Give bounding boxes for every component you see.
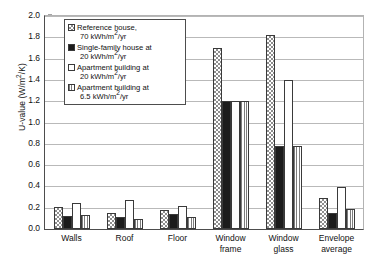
bar	[266, 35, 275, 229]
y-axis-tick-label: 0.0	[8, 224, 40, 233]
bar	[107, 213, 116, 229]
bar	[169, 214, 178, 229]
legend-label-line2: 6.5 kWh/m2/yr	[77, 92, 149, 101]
bar	[116, 217, 125, 229]
legend-item: Apartment building at20 kWh/m2/yr	[68, 63, 182, 81]
bar	[213, 48, 222, 229]
bar-group	[310, 16, 363, 229]
legend-label-line2: 20 kWh/m2/yr	[77, 52, 152, 61]
legend-label: Apartment building at6.5 kWh/m2/yr	[77, 83, 149, 101]
bar	[63, 216, 72, 229]
bar	[319, 198, 328, 229]
bar	[160, 210, 169, 229]
x-axis-tick-label: Window frame	[204, 233, 257, 254]
legend-label-line1: Apartment building at	[77, 63, 149, 72]
bar	[337, 187, 346, 229]
bar	[222, 101, 231, 229]
bar	[81, 215, 90, 229]
legend-swatch-icon	[68, 64, 75, 71]
x-axis-tick-label: Window glass	[257, 233, 310, 254]
bar	[125, 200, 134, 229]
legend-label: Single-family house at20 kWh/m2/yr	[77, 43, 152, 61]
x-axis-tick-label: Floor	[151, 233, 204, 254]
y-axis-tick-label: 2.0	[8, 11, 40, 20]
bar	[240, 101, 249, 229]
bar	[72, 203, 81, 229]
y-axis-tick-label: 1.2	[8, 96, 40, 105]
y-axis-tick-label: 1.0	[8, 117, 40, 126]
x-axis-tick-label: Roof	[98, 233, 151, 254]
y-axis-tick-label: 1.6	[8, 53, 40, 62]
legend-swatch-icon	[68, 84, 75, 91]
legend-label: Reference house,70 kWh/m2/yr	[77, 23, 137, 41]
legend-label-line2: 70 kWh/m2/yr	[77, 32, 137, 41]
legend-label-line1: Reference house,	[77, 23, 137, 32]
legend-item: Reference house,70 kWh/m2/yr	[68, 23, 182, 41]
y-axis-tick-label: 0.8	[8, 139, 40, 148]
bar	[346, 209, 355, 229]
legend-label-line1: Apartment building at	[77, 83, 149, 92]
legend-item: Single-family house at20 kWh/m2/yr	[68, 43, 182, 61]
bar-group	[204, 16, 257, 229]
y-axis-tick-label: 1.8	[8, 32, 40, 41]
x-axis-tick-label: Walls	[45, 233, 98, 254]
legend-label-line2: 20 kWh/m2/yr	[77, 72, 149, 81]
bar-group	[257, 16, 310, 229]
bar	[134, 219, 143, 229]
y-axis-tick-label: 1.4	[8, 75, 40, 84]
bar	[54, 207, 63, 229]
legend-swatch-icon	[68, 24, 75, 31]
bar	[284, 80, 293, 229]
legend: Reference house,70 kWh/m2/yrSingle-famil…	[64, 19, 186, 105]
bar	[293, 146, 302, 229]
bar	[275, 146, 284, 229]
y-axis-tick-label: 0.6	[8, 160, 40, 169]
legend-item: Apartment building at6.5 kWh/m2/yr	[68, 83, 182, 101]
x-axis-tick-labels: WallsRoofFloorWindow frameWindow glassEn…	[45, 233, 363, 254]
bar	[187, 217, 196, 229]
bar	[328, 213, 337, 229]
x-axis-tick-label: Envelope average	[310, 233, 363, 254]
legend-label: Apartment building at20 kWh/m2/yr	[77, 63, 149, 81]
y-axis-tick-labels: 2.01.81.61.41.21.00.80.60.40.20.0	[8, 15, 40, 228]
y-axis-tick-label: 0.4	[8, 181, 40, 190]
bar	[178, 206, 187, 229]
bar	[231, 101, 240, 229]
bar-chart: U-value (W/m2/K) 2.01.81.61.41.21.00.80.…	[0, 0, 370, 271]
legend-swatch-icon	[68, 44, 75, 51]
y-axis-tick-label: 0.2	[8, 202, 40, 211]
